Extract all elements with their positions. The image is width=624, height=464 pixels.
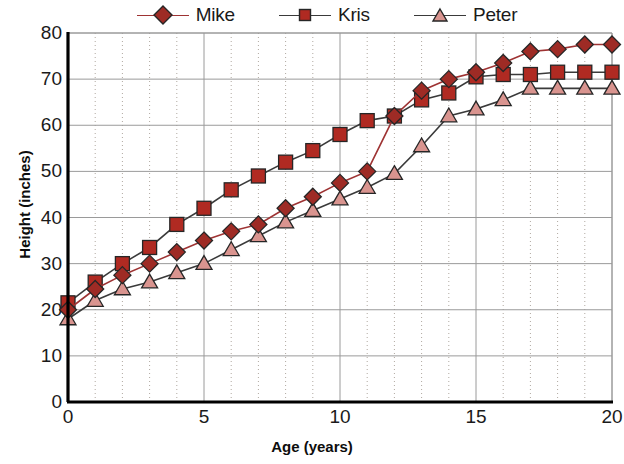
plot-area	[0, 0, 624, 464]
triangle-icon	[430, 5, 450, 25]
diamond-icon	[152, 4, 174, 26]
square-icon	[295, 5, 315, 25]
line-chart: Mike Kris Peter Height (inches) Age (yea…	[0, 0, 624, 464]
